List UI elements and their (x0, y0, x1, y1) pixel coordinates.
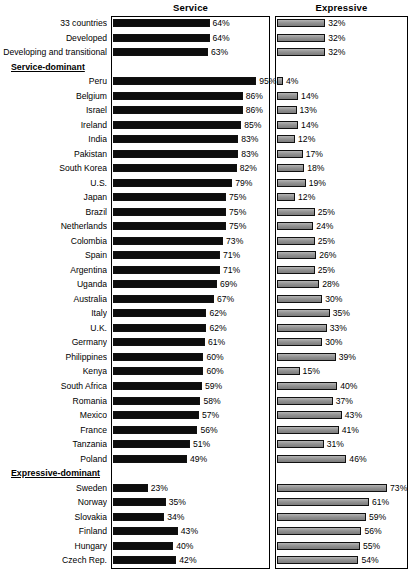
chart-row: Kenya60%15% (0, 364, 415, 378)
chart-row: Sweden23%73% (0, 481, 415, 495)
expressive-bar (277, 208, 315, 216)
service-bar (113, 426, 197, 434)
service-bar (113, 266, 220, 274)
chart-row: Pakistan83%17% (0, 147, 415, 161)
service-bar (113, 121, 241, 129)
expressive-bar-value: 55% (363, 539, 380, 553)
chart-row: Netherlands75%24% (0, 219, 415, 233)
expressive-bar-value: 40% (340, 379, 357, 393)
service-bar (113, 179, 232, 187)
service-bar (113, 34, 210, 42)
service-bar (113, 77, 256, 85)
service-bar (113, 92, 243, 100)
expressive-bar-cell: 4% (277, 74, 406, 88)
expressive-bar (277, 295, 322, 303)
expressive-bar-cell: 18% (277, 161, 406, 175)
expressive-bar-value: 18% (307, 161, 324, 175)
chart-row: Australia67%30% (0, 292, 415, 306)
service-bar-value: 69% (220, 277, 237, 291)
expressive-bar-value: 26% (319, 248, 336, 262)
service-bar-cell: 60% (113, 364, 268, 378)
service-bar-value: 58% (203, 394, 220, 408)
service-bar (113, 295, 214, 303)
service-bar-value: 35% (169, 495, 186, 509)
expressive-bar-cell: 25% (277, 234, 406, 248)
expressive-bar-cell: 39% (277, 350, 406, 364)
service-bar-value: 64% (213, 16, 230, 30)
expressive-bar (277, 498, 369, 506)
service-bar (113, 222, 226, 230)
service-bar-value: 83% (241, 132, 258, 146)
service-bar (113, 193, 226, 201)
service-bar-value: 79% (235, 176, 252, 190)
service-bar (113, 382, 202, 390)
service-bar-value: 60% (206, 350, 223, 364)
expressive-bar-cell: 26% (277, 248, 406, 262)
expressive-bar-value: 25% (318, 234, 335, 248)
row-label: Ireland (0, 118, 107, 132)
service-bar-cell: 95% (113, 74, 268, 88)
service-bar (113, 411, 199, 419)
service-bar (113, 251, 220, 259)
service-bar-cell: 79% (113, 176, 268, 190)
row-label: Tanzania (0, 437, 107, 451)
chart-row: Spain71%26% (0, 248, 415, 262)
service-bar-value: 63% (211, 45, 228, 59)
expressive-bar-cell: 19% (277, 176, 406, 190)
service-bar (113, 106, 243, 114)
chart-row: Hungary40%55% (0, 539, 415, 553)
service-bar-value: 75% (229, 205, 246, 219)
row-label: Japan (0, 190, 107, 204)
service-bar-value: 62% (209, 321, 226, 335)
chart-row: Developing and transitional63%32% (0, 45, 415, 59)
expressive-bar (277, 426, 339, 434)
service-bar-value: 64% (213, 31, 230, 45)
row-label: Slovakia (0, 510, 107, 524)
chart-row: Argentina71%25% (0, 263, 415, 277)
service-bar-value: 62% (209, 306, 226, 320)
chart-row: Belgium86%14% (0, 89, 415, 103)
service-bar-cell: 62% (113, 321, 268, 335)
chart-row: Germany61%30% (0, 335, 415, 349)
chart-row: Israel86%13% (0, 103, 415, 117)
row-label: U.K. (0, 321, 107, 335)
service-bar-value: 75% (229, 190, 246, 204)
service-bar (113, 324, 206, 332)
row-label: Spain (0, 248, 107, 262)
expressive-bar (277, 106, 297, 114)
expressive-bar (277, 411, 342, 419)
expressive-bar-value: 24% (316, 219, 333, 233)
expressive-bar (277, 484, 387, 492)
service-bar-cell: 35% (113, 495, 268, 509)
expressive-bar-value: 54% (361, 553, 378, 567)
chart-row: Czech Rep.42%54% (0, 553, 415, 567)
expressive-bar-value: 37% (336, 394, 353, 408)
service-bar-value: 42% (179, 553, 196, 567)
service-bar-cell: 85% (113, 118, 268, 132)
row-label: Italy (0, 306, 107, 320)
expressive-bar-cell: 30% (277, 292, 406, 306)
service-bar (113, 353, 203, 361)
service-bar (113, 440, 190, 448)
expressive-bar (277, 237, 315, 245)
chart-row: U.K.62%33% (0, 321, 415, 335)
expressive-bar-value: 13% (300, 103, 317, 117)
expressive-bar-cell: 25% (277, 263, 406, 277)
service-bar-cell: 86% (113, 89, 268, 103)
expressive-bar-cell: 28% (277, 277, 406, 291)
expressive-bar (277, 440, 324, 448)
expressive-bar-cell: 43% (277, 408, 406, 422)
expressive-bar-cell: 13% (277, 103, 406, 117)
service-bar-value: 73% (226, 234, 243, 248)
service-bar (113, 135, 238, 143)
row-label: Finland (0, 524, 107, 538)
service-bar (113, 150, 238, 158)
expressive-bar-cell: 25% (277, 205, 406, 219)
expressive-bar-value: 73% (390, 481, 407, 495)
service-bar-cell: 83% (113, 147, 268, 161)
row-label: Czech Rep. (0, 553, 107, 567)
service-bar-value: 57% (202, 408, 219, 422)
row-label: Australia (0, 292, 107, 306)
service-bar-cell: 62% (113, 306, 268, 320)
expressive-bar (277, 556, 358, 564)
